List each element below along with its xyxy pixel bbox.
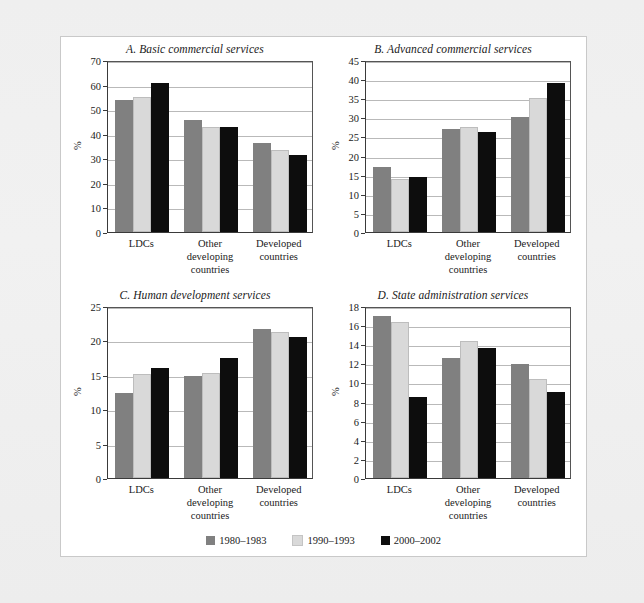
bar — [529, 379, 547, 478]
page-background: A. Basic commercial services%01020304050… — [0, 0, 644, 603]
bar — [115, 100, 133, 232]
bar — [151, 368, 169, 478]
legend-swatch-icon — [292, 535, 303, 546]
bar — [289, 155, 307, 232]
bar — [373, 167, 391, 232]
bar — [511, 364, 529, 478]
bar — [547, 83, 565, 232]
y-axis-label: % — [72, 384, 83, 400]
x-category-line: countries — [164, 509, 257, 522]
bar — [220, 358, 238, 478]
x-category-line: Developed — [232, 237, 325, 250]
x-category-line: Developed — [490, 237, 583, 250]
bar — [529, 98, 547, 232]
bar — [442, 358, 460, 478]
y-tick-mark — [103, 479, 107, 480]
gridline — [108, 308, 312, 309]
y-tick-label: 4 — [325, 435, 359, 446]
y-tick-mark — [361, 233, 365, 234]
y-tick-label: 20 — [67, 178, 101, 189]
x-category-line: countries — [232, 250, 325, 263]
y-tick-label: 15 — [325, 170, 359, 181]
x-category-line: countries — [490, 496, 583, 509]
chart-legend: 1980–19831990–19932000–2002 — [61, 535, 586, 546]
bar — [391, 179, 409, 233]
x-category-line: countries — [490, 250, 583, 263]
bar — [184, 376, 202, 479]
panel-title: A. Basic commercial services — [67, 43, 323, 55]
x-category-label: Developedcountries — [490, 237, 583, 263]
x-category-line: countries — [232, 496, 325, 509]
bar — [202, 373, 220, 478]
legend-label: 1990–1993 — [307, 535, 354, 546]
bar — [478, 132, 496, 232]
legend-label: 2000–2002 — [394, 535, 441, 546]
bar — [547, 392, 565, 478]
plot-area — [107, 61, 313, 233]
y-tick-label: 2 — [325, 454, 359, 465]
chart-panel-b: B. Advanced commercial services%05101520… — [325, 43, 581, 293]
figure-container: A. Basic commercial services%01020304050… — [60, 36, 587, 557]
x-category-line: countries — [422, 263, 515, 276]
x-category-label: Developedcountries — [232, 237, 325, 263]
legend-swatch-icon — [381, 536, 390, 545]
bar — [133, 97, 151, 232]
panel-title: D. State administration services — [325, 289, 581, 301]
bar — [442, 129, 460, 232]
y-tick-label: 8 — [325, 397, 359, 408]
y-tick-label: 60 — [67, 80, 101, 91]
plot-area — [365, 61, 571, 233]
gridline — [366, 62, 570, 63]
y-tick-label: 16 — [325, 321, 359, 332]
plot-area — [365, 307, 571, 479]
x-category-line: countries — [164, 263, 257, 276]
bar — [289, 337, 307, 478]
bar — [460, 127, 478, 232]
legend-item: 2000–2002 — [381, 535, 441, 546]
legend-swatch-icon — [206, 536, 215, 545]
bar — [478, 348, 496, 478]
y-tick-label: 20 — [325, 151, 359, 162]
y-tick-label: 10 — [325, 189, 359, 200]
y-tick-label: 20 — [67, 336, 101, 347]
legend-item: 1980–1983 — [206, 535, 266, 546]
x-category-label: Developedcountries — [490, 483, 583, 509]
y-tick-mark — [103, 233, 107, 234]
panel-title: B. Advanced commercial services — [325, 43, 581, 55]
bar — [151, 83, 169, 232]
chart-panel-a: A. Basic commercial services%01020304050… — [67, 43, 323, 293]
y-tick-label: 30 — [67, 154, 101, 165]
x-category-line: Developed — [232, 483, 325, 496]
legend-item: 1990–1993 — [292, 535, 354, 546]
bar — [184, 120, 202, 232]
bar — [511, 117, 529, 232]
y-tick-label: 35 — [325, 94, 359, 105]
x-category-line: countries — [422, 509, 515, 522]
y-tick-label: 40 — [325, 75, 359, 86]
y-tick-label: 14 — [325, 340, 359, 351]
panel-title: C. Human development services — [67, 289, 323, 301]
y-tick-label: 10 — [67, 405, 101, 416]
plot-area — [107, 307, 313, 479]
y-tick-label: 12 — [325, 359, 359, 370]
bar — [460, 341, 478, 478]
gridline — [366, 308, 570, 309]
legend-label: 1980–1983 — [219, 535, 266, 546]
y-tick-label: 6 — [325, 416, 359, 427]
panel-grid: A. Basic commercial services%01020304050… — [61, 37, 586, 556]
y-tick-label: 10 — [67, 203, 101, 214]
y-tick-mark — [361, 479, 365, 480]
y-tick-label: 25 — [67, 302, 101, 313]
bar — [253, 143, 271, 232]
chart-panel-d: D. State administration services%0246810… — [325, 289, 581, 521]
y-tick-label: 25 — [325, 132, 359, 143]
bar — [133, 374, 151, 478]
y-tick-label: 40 — [67, 129, 101, 140]
y-tick-label: 70 — [67, 56, 101, 67]
bar — [253, 329, 271, 478]
y-tick-label: 10 — [325, 378, 359, 389]
y-tick-label: 45 — [325, 56, 359, 67]
bar — [409, 177, 427, 232]
gridline — [108, 87, 312, 88]
x-category-line: Developed — [490, 483, 583, 496]
